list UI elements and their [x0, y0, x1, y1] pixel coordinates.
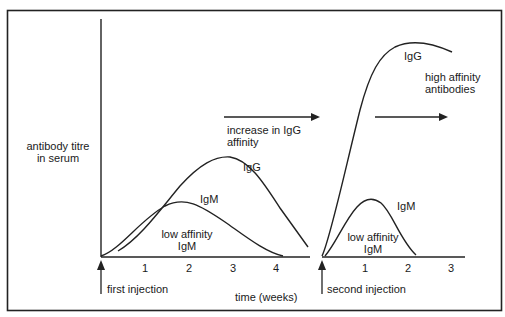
- second-injection-arrow-head: [318, 260, 326, 270]
- y-axis-label-line2: in serum: [20, 152, 96, 164]
- increase-line2: affinity: [227, 136, 301, 148]
- primary-tick-4: 4: [273, 262, 279, 274]
- y-axis-label: antibody titre in serum: [20, 140, 96, 164]
- secondary-tick-2: 2: [405, 262, 411, 274]
- high-affinity-arrow-head: [439, 113, 448, 121]
- high-affinity-line1: high affinity: [425, 71, 480, 83]
- primary-tick-1: 1: [142, 262, 148, 274]
- primary-tick-3: 3: [230, 262, 236, 274]
- x-axis-label: time (weeks): [235, 291, 297, 303]
- increase-igg-affinity-label: increase in IgG affinity: [227, 124, 301, 148]
- primary-low-affinity-line1: low affinity: [152, 228, 222, 240]
- secondary-low-affinity-line1: low affinity: [340, 231, 406, 243]
- secondary-tick-1: 1: [362, 262, 368, 274]
- second-injection-label: second injection: [327, 283, 406, 295]
- increase-line1: increase in IgG: [227, 124, 301, 136]
- primary-igm-label: IgM: [200, 193, 218, 205]
- high-affinity-label: high affinity antibodies: [425, 71, 480, 95]
- primary-low-affinity-label: low affinity IgM: [152, 228, 222, 252]
- primary-igg-label: IgG: [243, 161, 261, 173]
- secondary-igm-label: IgM: [397, 200, 415, 212]
- secondary-tick-3: 3: [448, 262, 454, 274]
- high-affinity-line2: antibodies: [425, 83, 480, 95]
- increase-arrow-head: [311, 113, 320, 121]
- y-axis-label-line1: antibody titre: [20, 140, 96, 152]
- secondary-low-affinity-line2: IgM: [340, 243, 406, 255]
- primary-low-affinity-line2: IgM: [152, 240, 222, 252]
- first-injection-arrow-head: [97, 260, 105, 270]
- primary-tick-2: 2: [186, 262, 192, 274]
- first-injection-label: first injection: [107, 283, 168, 295]
- secondary-low-affinity-label: low affinity IgM: [340, 231, 406, 255]
- secondary-igg-label: IgG: [404, 50, 422, 62]
